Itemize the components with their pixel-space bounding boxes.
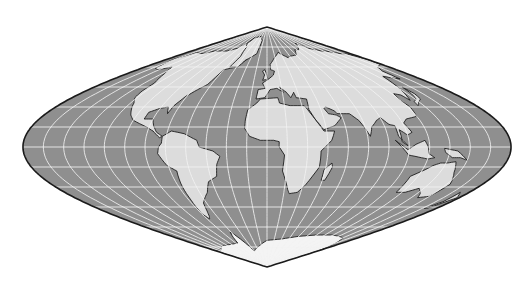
graticule bbox=[23, 27, 511, 267]
map-canvas bbox=[0, 0, 532, 288]
world-map: World map — sinusoidal projection bbox=[0, 0, 532, 288]
